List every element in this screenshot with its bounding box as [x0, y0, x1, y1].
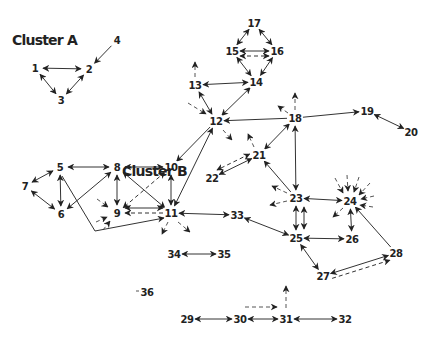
node-32: 32 — [339, 314, 352, 325]
node-9: 9 — [114, 208, 121, 219]
edge-23-21 — [264, 161, 291, 192]
edge-14-15 — [237, 57, 251, 75]
edge-13-14 — [203, 82, 248, 84]
node-22: 22 — [206, 173, 219, 184]
node-21: 21 — [253, 150, 266, 161]
edge-5-6 — [60, 175, 61, 206]
node-6: 6 — [58, 209, 65, 220]
edge-18-12 — [224, 118, 287, 120]
node-30: 30 — [234, 314, 247, 325]
node-23: 23 — [290, 193, 303, 204]
edge-18-23 — [295, 126, 296, 190]
node-8: 8 — [114, 162, 121, 173]
node-5: 5 — [57, 162, 64, 173]
edge-18-21 — [265, 124, 290, 150]
node-1: 1 — [32, 63, 39, 74]
edge-27-28 — [332, 260, 390, 278]
node-28: 28 — [390, 248, 403, 259]
node-26: 26 — [346, 234, 359, 245]
edge-6-7 — [31, 191, 54, 209]
node-2: 2 — [86, 64, 93, 75]
edge-15-17 — [237, 29, 249, 44]
node-36: 36 — [141, 287, 154, 298]
node-16: 16 — [271, 46, 284, 57]
cluster-label: Cluster A — [12, 32, 78, 48]
node-18: 18 — [289, 113, 302, 124]
edge-11-33 — [179, 213, 229, 215]
edge-23-24 — [304, 198, 342, 200]
node-34: 34 — [168, 249, 181, 260]
cluster-label: Cluster B — [122, 163, 187, 179]
node-33: 33 — [231, 210, 244, 221]
diagram-canvas: 1234567891011121314151617181920212223242… — [0, 0, 438, 347]
node-24: 24 — [344, 196, 357, 207]
node-29: 29 — [181, 314, 194, 325]
network-diagram: 1234567891011121314151617181920212223242… — [0, 0, 438, 347]
node-17: 17 — [248, 18, 261, 29]
edge-14-16 — [260, 58, 272, 76]
edge-25-33 — [244, 218, 288, 235]
nodes: 1234567891011121314151617181920212223242… — [21, 17, 418, 325]
node-14: 14 — [250, 77, 263, 88]
edge-1-2 — [43, 68, 81, 69]
node-4: 4 — [114, 35, 121, 46]
edge-6-8 — [67, 172, 111, 209]
edge-25-26 — [304, 238, 344, 239]
node-31: 31 — [280, 314, 293, 325]
node-11: 11 — [165, 208, 178, 219]
edge-12-10 — [177, 127, 211, 162]
edge-12-14 — [222, 88, 251, 116]
node-25: 25 — [290, 233, 303, 244]
cluster-labels: Cluster ACluster B — [12, 32, 187, 179]
node-19: 19 — [361, 106, 374, 117]
edge-1-3 — [40, 74, 56, 94]
edge-25-27 — [301, 245, 319, 270]
edge-18-19 — [303, 112, 359, 117]
edge-19-20 — [374, 114, 404, 128]
edge-2-3 — [66, 75, 83, 94]
edge-28-24 — [355, 207, 390, 247]
edge-4-2 — [95, 46, 112, 63]
edge-5-7 — [32, 171, 53, 182]
node-13: 13 — [189, 80, 202, 91]
node-12: 12 — [210, 116, 223, 127]
edge-24-26 — [350, 209, 351, 231]
edge-16-17 — [259, 29, 272, 45]
node-7: 7 — [22, 181, 29, 192]
node-20: 20 — [405, 127, 418, 138]
edge-27-28 — [331, 255, 389, 273]
node-3: 3 — [58, 95, 65, 106]
node-27: 27 — [317, 271, 330, 282]
node-35: 35 — [218, 249, 231, 260]
node-15: 15 — [226, 46, 239, 57]
